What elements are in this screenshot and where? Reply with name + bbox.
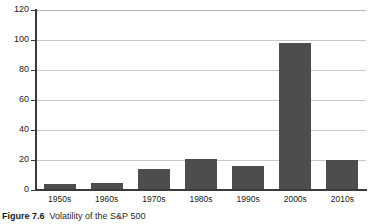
y-tick-mark-60	[31, 100, 36, 101]
y-tick-label-20: 20	[0, 155, 29, 164]
y-tick-label-60: 60	[0, 95, 29, 104]
figure-container: 020406080100120 1950s1960s1970s1980s1990…	[0, 0, 374, 224]
caption-label: Figure	[2, 211, 30, 221]
x-tick-label-2010s: 2010s	[312, 194, 372, 204]
y-tick-mark-80	[31, 70, 36, 71]
bar-1990s[interactable]	[232, 166, 264, 190]
caption-number: 7.6	[32, 211, 45, 221]
gridline-80	[36, 70, 366, 71]
chart-plot-area	[36, 10, 366, 190]
y-tick-mark-20	[31, 160, 36, 161]
y-tick-label-80: 80	[0, 65, 29, 74]
bar-2000s[interactable]	[279, 43, 311, 190]
y-tick-label-0: 0	[0, 185, 29, 194]
caption-text: Volatility of the S&P 500	[50, 211, 146, 221]
y-tick-label-120: 120	[0, 5, 29, 14]
gridline-120	[36, 10, 366, 11]
y-tick-label-40: 40	[0, 125, 29, 134]
bar-1980s[interactable]	[185, 159, 217, 191]
y-tick-mark-100	[31, 40, 36, 41]
bar-2010s[interactable]	[326, 160, 358, 190]
gridline-100	[36, 40, 366, 41]
y-tick-label-100: 100	[0, 35, 29, 44]
figure-caption: Figure 7.6 Volatility of the S&P 500	[2, 211, 374, 222]
gridline-60	[36, 100, 366, 101]
x-axis-line	[36, 189, 367, 191]
bar-1970s[interactable]	[138, 169, 170, 190]
gridline-40	[36, 130, 366, 131]
y-tick-mark-0	[31, 190, 36, 191]
y-tick-mark-40	[31, 130, 36, 131]
y-tick-mark-120	[31, 10, 36, 11]
